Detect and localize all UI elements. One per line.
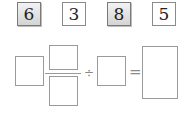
card-value: 5 [159,4,170,24]
number-card-2[interactable]: 3 [62,2,86,26]
numerator-box[interactable] [49,45,78,70]
result-box[interactable] [142,46,178,99]
card-value: 6 [24,4,35,24]
whole-number-box[interactable] [15,56,44,86]
equals-sign: = [129,66,142,78]
divisor-box[interactable] [97,56,126,86]
denominator-box[interactable] [49,76,78,106]
fraction-bar [45,73,81,74]
card-value: 3 [69,4,80,24]
number-card-1[interactable]: 6 [17,2,41,26]
divide-sign: ÷ [84,67,94,79]
number-card-3[interactable]: 8 [107,2,131,26]
card-value: 8 [114,4,125,24]
number-card-4[interactable]: 5 [152,2,176,26]
